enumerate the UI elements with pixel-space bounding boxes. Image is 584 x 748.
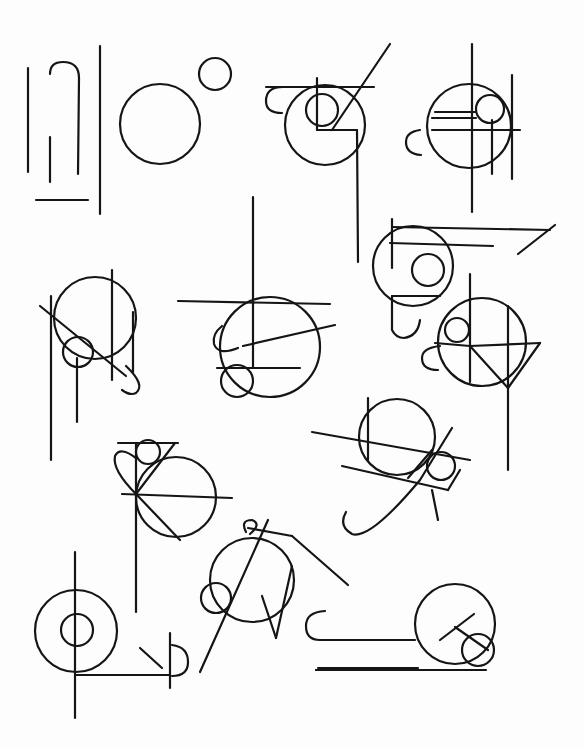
curve-stroke: [406, 130, 421, 155]
curve-stroke: [214, 326, 238, 351]
line-stroke: [357, 130, 358, 262]
line-stroke: [455, 627, 488, 650]
line-stroke: [392, 227, 550, 230]
glyph-g8: [178, 197, 335, 397]
circle-stroke: [359, 399, 435, 475]
glyph-g12: [35, 552, 188, 718]
glyph-g6: [422, 274, 540, 470]
line-stroke: [276, 566, 292, 638]
line-stroke: [470, 343, 540, 346]
curve-stroke: [306, 611, 415, 640]
glyph-g13: [306, 584, 495, 670]
curve-stroke: [244, 520, 257, 534]
line-stroke: [140, 648, 162, 668]
circle-stroke: [221, 365, 253, 397]
curve-stroke: [50, 62, 79, 174]
circle-stroke: [199, 58, 231, 90]
circle-stroke: [445, 318, 469, 342]
curve-stroke: [422, 346, 440, 370]
line-stroke: [508, 343, 540, 388]
glyph-g1: [28, 46, 100, 214]
circle-stroke: [412, 254, 444, 286]
glyph-g2: [120, 58, 231, 164]
glyph-g3: [266, 44, 390, 262]
sketch-canvas: [0, 0, 584, 748]
circle-stroke: [438, 298, 526, 386]
curve-stroke: [122, 366, 139, 394]
glyph-g11: [200, 520, 348, 672]
circle-stroke: [476, 95, 504, 123]
glyph-g10: [115, 440, 232, 612]
glyph-g9: [312, 398, 470, 535]
circle-stroke: [61, 614, 93, 646]
circle-stroke: [220, 297, 320, 397]
circle-stroke: [54, 277, 136, 359]
line-stroke: [136, 443, 175, 494]
line-stroke: [292, 536, 348, 585]
glyph-g4: [406, 44, 520, 212]
line-stroke: [470, 346, 508, 388]
circle-stroke: [415, 584, 495, 664]
circle-stroke: [462, 634, 494, 666]
curve-stroke: [115, 451, 136, 494]
glyph-g7: [40, 270, 139, 460]
circle-stroke: [306, 94, 338, 126]
glyph-sketch-drawing: [0, 0, 584, 748]
line-stroke: [432, 490, 438, 520]
line-stroke: [390, 243, 493, 246]
circle-stroke: [201, 583, 231, 613]
curve-stroke: [266, 87, 283, 113]
circle-stroke: [120, 84, 200, 164]
curve-stroke: [172, 645, 188, 676]
line-stroke: [243, 325, 335, 346]
